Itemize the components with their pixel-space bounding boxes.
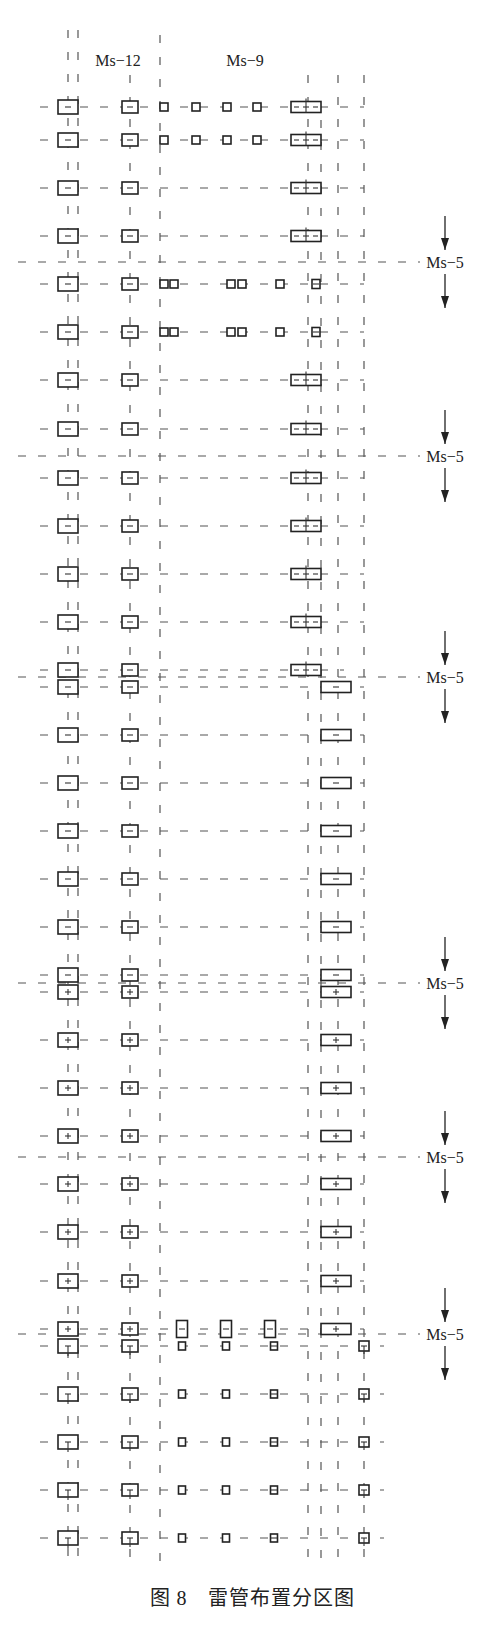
detonator-box (291, 470, 321, 484)
detonator-box (271, 1438, 278, 1446)
detonator-box (122, 825, 138, 837)
detonator-box (58, 422, 78, 436)
detonator-box (223, 1534, 230, 1542)
ms5-label: Ms−5 (426, 975, 463, 992)
detonator-box (223, 1486, 230, 1494)
detonator-box (58, 776, 78, 790)
detonator-box (58, 824, 78, 838)
figure-caption: 图 8雷管布置分区图 (0, 1582, 504, 1611)
detonator-box (122, 101, 138, 113)
detonator-box (122, 520, 138, 532)
detonator-box (58, 567, 78, 581)
detonator-box (359, 1389, 369, 1402)
detonator-box (223, 1342, 230, 1350)
detonator-box (58, 1033, 78, 1047)
detonator-box (170, 328, 178, 336)
detonator-box (291, 372, 321, 386)
detonator-box (170, 280, 178, 288)
detonator-box (122, 1082, 138, 1094)
detonator-box (122, 1178, 138, 1190)
detonator-box (192, 103, 200, 111)
detonator-box (122, 1388, 138, 1403)
detonator-box (276, 328, 284, 336)
detonator-box (122, 969, 138, 981)
detonator-box (122, 472, 138, 484)
detonator-box (321, 778, 351, 789)
detonator-box (58, 680, 78, 694)
detonator-box (58, 1177, 78, 1191)
detonator-box (122, 1484, 138, 1499)
detonator-box (58, 1129, 78, 1143)
detonator-box (291, 614, 321, 628)
detonator-box (122, 1226, 138, 1238)
detonator-box (192, 136, 200, 144)
detonator-box (58, 277, 78, 291)
detonator-box (122, 134, 138, 146)
detonator-box (265, 1321, 276, 1338)
detonator-box (58, 1387, 78, 1404)
detonator-box (122, 1323, 138, 1335)
detonator-box (160, 280, 168, 288)
ms5-divider-lines: Ms−5Ms−5Ms−5Ms−5Ms−5Ms−5 (18, 216, 472, 1380)
detonator-box (238, 328, 246, 336)
detonator-box (58, 663, 78, 677)
detonator-box (122, 1532, 138, 1547)
detonator-box (58, 373, 78, 387)
detonator-box (321, 1324, 351, 1335)
detonator-box (58, 1225, 78, 1239)
detonator-box (122, 230, 138, 242)
detonator-box (58, 1483, 78, 1500)
detonator-box (58, 519, 78, 533)
detonator-box (321, 1035, 351, 1046)
detonator-box (238, 280, 246, 288)
detonator-box (321, 1131, 351, 1142)
detonator-box (321, 1179, 351, 1190)
detonator-box (253, 103, 261, 111)
detonator-box (58, 968, 78, 982)
detonator-box (58, 1435, 78, 1452)
detonator-box (58, 471, 78, 485)
column-label: Ms−12 (95, 52, 140, 69)
detonator-box (122, 1340, 138, 1355)
detonator-box (160, 328, 168, 336)
detonator-box (179, 1486, 186, 1494)
detonator-box (122, 568, 138, 580)
detonator-box (160, 103, 168, 111)
detonator-box (58, 872, 78, 886)
detonator-box (321, 987, 351, 998)
detonator-box (58, 229, 78, 243)
detonator-box (223, 1390, 230, 1398)
detonator-box (122, 921, 138, 933)
detonator-box (58, 1531, 78, 1548)
figure-number: 图 8 (150, 1587, 188, 1609)
detonator-box (223, 103, 231, 111)
detonator-box (321, 874, 351, 885)
detonator-box (321, 922, 351, 933)
detonator-box (58, 1274, 78, 1288)
detonator-box (291, 132, 321, 146)
detonator-box (122, 616, 138, 628)
detonator-box (122, 1130, 138, 1142)
detonator-box (58, 728, 78, 742)
detonator-box (179, 1438, 186, 1446)
detonator-box (227, 280, 235, 288)
ms5-label: Ms−5 (426, 1326, 463, 1343)
detonator-box (321, 826, 351, 837)
detonator-box (122, 1436, 138, 1451)
detonator-box (321, 1227, 351, 1238)
detonator-boxes (58, 99, 369, 1549)
detonator-box (122, 986, 138, 998)
detonator-box (122, 326, 138, 338)
ms5-label: Ms−5 (426, 448, 463, 465)
detonator-box (122, 664, 138, 676)
detonator-box (276, 280, 284, 288)
detonator-box (58, 920, 78, 934)
detonator-box (58, 985, 78, 999)
detonator-box (122, 1275, 138, 1287)
detonator-box (291, 662, 321, 676)
figure-title: 雷管布置分区图 (208, 1587, 355, 1609)
detonator-box (58, 1081, 78, 1095)
detonator-box (122, 873, 138, 885)
detonator-box (321, 970, 351, 981)
detonator-box (179, 1390, 186, 1398)
